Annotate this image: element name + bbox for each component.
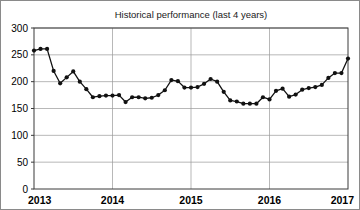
y-tick-label: 300 (11, 23, 28, 34)
data-point (71, 69, 75, 73)
data-point (45, 47, 49, 51)
data-point (280, 87, 284, 91)
x-tick-label: 2017 (331, 194, 355, 206)
data-point (274, 89, 278, 93)
data-point (163, 88, 167, 92)
data-point (65, 75, 69, 79)
data-point (110, 94, 114, 98)
data-point (339, 71, 343, 75)
chart-canvas: 050100150200250300 20132014201520162017 … (1, 1, 360, 210)
data-point (38, 47, 42, 51)
data-point (97, 94, 101, 98)
data-point (104, 94, 108, 98)
data-point (346, 56, 350, 60)
data-point (248, 102, 252, 106)
data-point (235, 99, 239, 103)
data-point (300, 88, 304, 92)
data-point (215, 80, 219, 84)
y-tick-label: 200 (11, 76, 28, 87)
data-point (195, 85, 199, 89)
data-point (320, 83, 324, 87)
data-point (52, 69, 56, 73)
data-point (209, 77, 213, 81)
data-point (84, 87, 88, 91)
data-point (241, 102, 245, 106)
data-point (189, 85, 193, 89)
data-point (176, 79, 180, 83)
x-tick-label: 2015 (179, 194, 203, 206)
data-point (202, 82, 206, 86)
data-point (326, 76, 330, 80)
data-point (123, 100, 127, 104)
x-tick-label: 2016 (258, 194, 282, 206)
data-point (333, 71, 337, 75)
y-tick-label: 150 (11, 103, 28, 114)
data-point (261, 95, 265, 99)
data-point (267, 97, 271, 101)
data-point (91, 95, 95, 99)
data-point (254, 102, 258, 106)
data-point (228, 98, 232, 102)
data-point (313, 85, 317, 89)
data-point (182, 85, 186, 89)
chart-figure: 050100150200250300 20132014201520162017 … (0, 0, 360, 210)
y-axis-ticks: 050100150200250300 (11, 23, 34, 195)
chart-title: Historical performance (last 4 years) (115, 9, 268, 20)
x-axis-ticks: 20132014201520162017 (28, 194, 354, 206)
data-point (150, 96, 154, 100)
y-tick-label: 50 (17, 157, 29, 168)
data-point (32, 48, 36, 52)
y-tick-label: 100 (11, 130, 28, 141)
data-point (222, 90, 226, 94)
data-point (137, 95, 141, 99)
x-tick-label: 2013 (28, 194, 52, 206)
y-tick-label: 0 (22, 184, 28, 195)
y-tick-label: 250 (11, 49, 28, 60)
data-point (130, 95, 134, 99)
data-point (156, 93, 160, 97)
data-point (287, 95, 291, 99)
data-point (143, 96, 147, 100)
data-point (117, 93, 121, 97)
data-point (294, 92, 298, 96)
data-point (169, 78, 173, 82)
data-point (307, 86, 311, 90)
data-point (58, 81, 62, 85)
data-point (78, 80, 82, 84)
grid-layer (34, 28, 348, 189)
x-tick-label: 2014 (101, 194, 125, 206)
